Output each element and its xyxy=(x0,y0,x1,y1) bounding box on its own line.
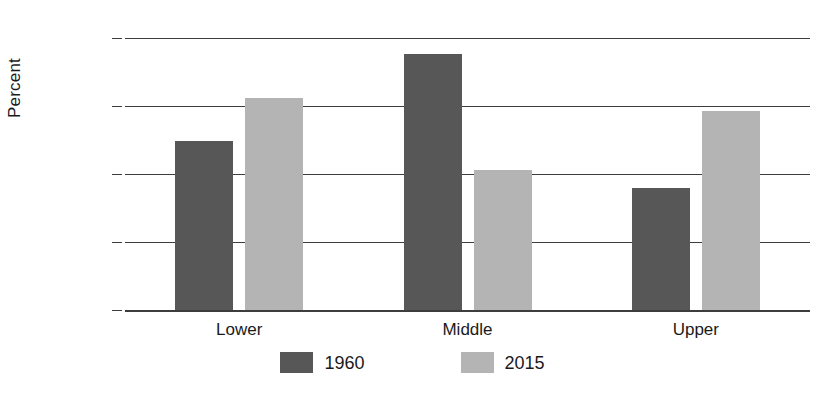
chart-legend: 19602015 xyxy=(0,352,825,373)
y-gridline xyxy=(125,310,810,312)
x-axis-label-upper: Upper xyxy=(673,320,719,340)
legend-label-1960: 1960 xyxy=(324,354,364,372)
y-tick-mark xyxy=(112,174,122,175)
bar-upper-2015 xyxy=(702,111,760,310)
x-axis-label-middle: Middle xyxy=(442,320,492,340)
y-tick-mark xyxy=(112,242,122,243)
y-gridline xyxy=(125,106,810,107)
y-tick-mark xyxy=(112,310,122,311)
legend-item-1960: 1960 xyxy=(280,352,364,373)
legend-label-2015: 2015 xyxy=(505,354,545,372)
legend-swatch-2015 xyxy=(461,352,494,373)
plot-area: 0.012.525.037.550.0LowerMiddleUpper xyxy=(125,38,810,310)
bar-chart: Percent 0.012.525.037.550.0LowerMiddleUp… xyxy=(0,0,825,408)
bar-middle-2015 xyxy=(474,170,532,310)
x-axis-label-lower: Lower xyxy=(216,320,262,340)
y-axis-title: Percent xyxy=(0,28,30,148)
bar-lower-1960 xyxy=(175,141,233,310)
bar-upper-1960 xyxy=(632,188,690,310)
y-tick-mark xyxy=(112,106,122,107)
y-gridline xyxy=(125,38,810,39)
legend-swatch-1960 xyxy=(280,352,313,373)
bar-middle-1960 xyxy=(404,54,462,310)
legend-item-2015: 2015 xyxy=(461,352,545,373)
bar-lower-2015 xyxy=(245,98,303,310)
y-tick-mark xyxy=(112,38,122,39)
